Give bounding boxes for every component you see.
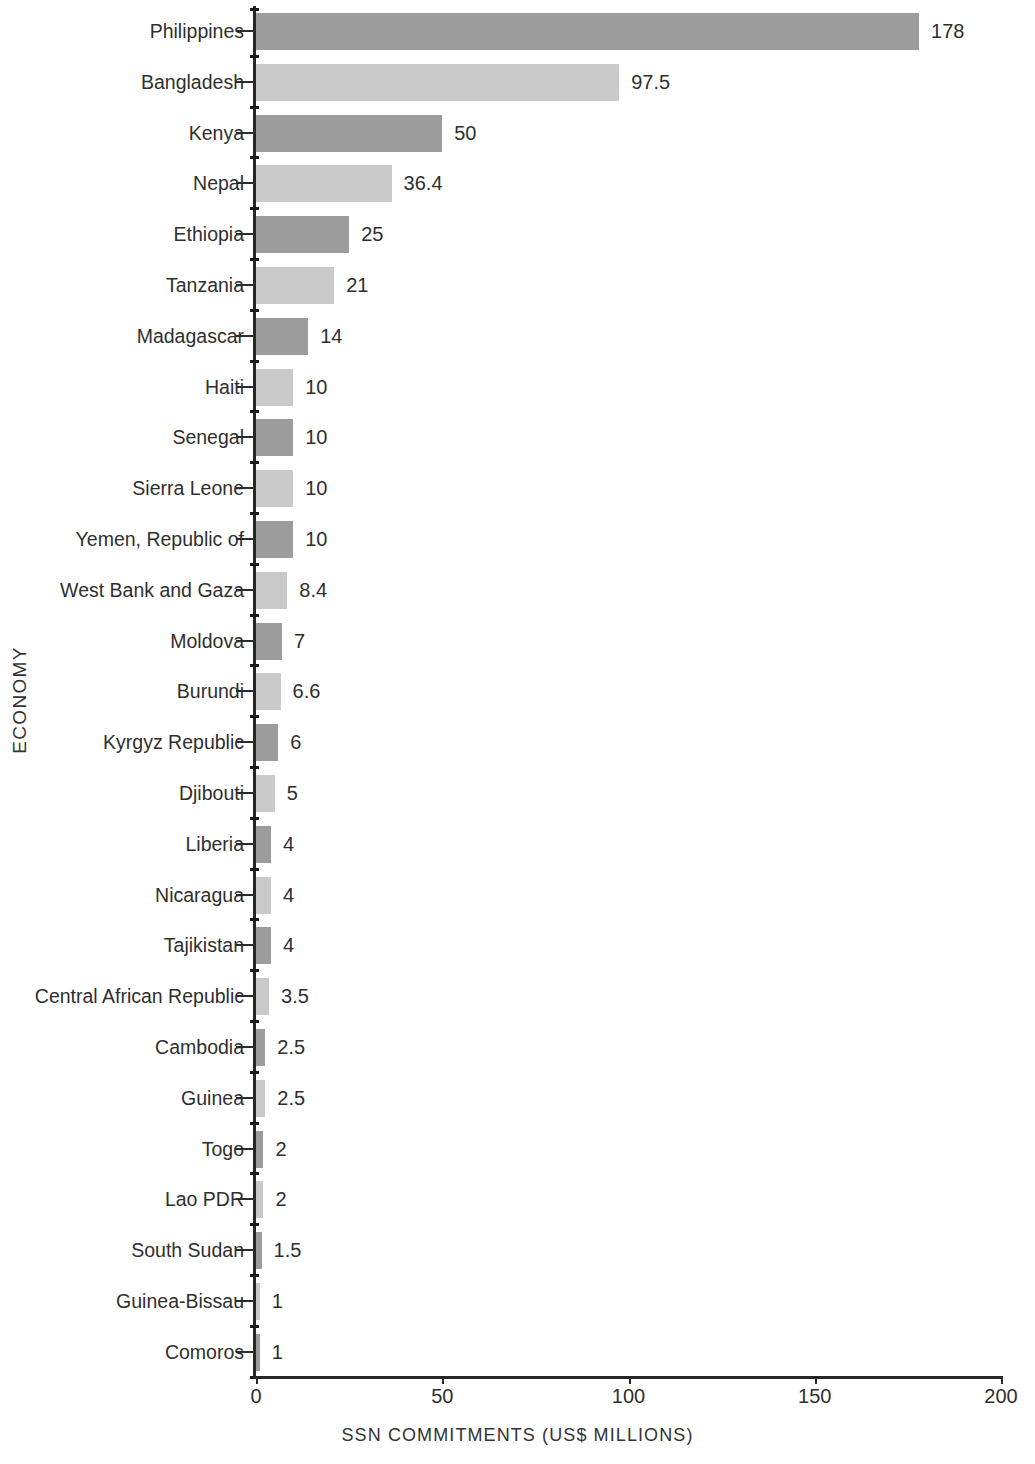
bar	[256, 369, 293, 406]
category-label: Bangladesh	[141, 57, 244, 108]
bar-row: Nepal36.4	[0, 158, 1035, 209]
y-axis-minor-tick	[250, 106, 259, 109]
y-axis-minor-tick	[250, 1020, 259, 1023]
category-tick-dash	[236, 487, 256, 489]
bar-row: Madagascar14	[0, 311, 1035, 362]
bar-row: Burundi6.6	[0, 666, 1035, 717]
y-axis-minor-tick	[250, 207, 259, 210]
bar-row: South Sudan1.5	[0, 1225, 1035, 1276]
bar-row: Djibouti5	[0, 768, 1035, 819]
y-axis-minor-tick	[250, 664, 259, 667]
bar-row: Guinea2.5	[0, 1073, 1035, 1124]
bar-row: Moldova7	[0, 616, 1035, 667]
x-axis-title: SSN COMMITMENTS (US$ MILLIONS)	[0, 1425, 1035, 1446]
category-tick-dash	[236, 386, 256, 388]
category-label: Comoros	[165, 1327, 244, 1378]
y-axis-minor-tick	[250, 8, 259, 11]
y-axis-minor-tick	[250, 766, 259, 769]
bar-row: Tanzania21	[0, 260, 1035, 311]
bar-value-label: 10	[305, 514, 327, 565]
bar-value-label: 14	[320, 311, 342, 362]
bar	[256, 1181, 263, 1218]
bar-row: Comoros1	[0, 1327, 1035, 1378]
category-tick-dash	[236, 792, 256, 794]
bar	[256, 623, 282, 660]
category-label: Madagascar	[137, 311, 244, 362]
bar-value-label: 5	[287, 768, 298, 819]
bar	[256, 165, 392, 202]
category-label: Guinea-Bissau	[116, 1276, 244, 1327]
y-axis-minor-tick	[250, 512, 259, 515]
y-axis-minor-tick	[250, 868, 259, 871]
category-label: West Bank and Gaza	[60, 565, 244, 616]
category-label: Guinea	[181, 1073, 244, 1124]
bar-value-label: 6	[290, 717, 301, 768]
category-label: Philippines	[150, 6, 244, 57]
bar-value-label: 36.4	[404, 158, 443, 209]
category-tick-dash	[236, 1097, 256, 1099]
bar-value-label: 2.5	[277, 1022, 305, 1073]
y-axis-minor-tick	[250, 1223, 259, 1226]
bar-row: Kyrgyz Republic6	[0, 717, 1035, 768]
bar-value-label: 10	[305, 463, 327, 514]
bar-value-label: 1.5	[274, 1225, 302, 1276]
bar-row: Yemen, Republic of10	[0, 514, 1035, 565]
y-axis-minor-tick	[250, 258, 259, 261]
x-axis-line	[253, 1376, 1001, 1379]
category-tick-dash	[236, 1351, 256, 1353]
x-axis-tick	[815, 1376, 817, 1384]
x-axis-tick-label: 200	[961, 1385, 1035, 1408]
bar-value-label: 25	[361, 209, 383, 260]
bar-value-label: 4	[283, 870, 294, 921]
x-axis-tick	[256, 1376, 258, 1384]
bar-value-label: 97.5	[631, 57, 670, 108]
y-axis-minor-tick	[250, 817, 259, 820]
category-tick-dash	[236, 1046, 256, 1048]
bar-value-label: 4	[283, 819, 294, 870]
category-label: Burundi	[177, 666, 244, 717]
category-tick-dash	[236, 233, 256, 235]
y-axis-minor-tick	[250, 715, 259, 718]
y-axis-minor-tick	[250, 563, 259, 566]
bar-row: Philippines178	[0, 6, 1035, 57]
bar-value-label: 10	[305, 412, 327, 463]
bar-value-label: 4	[283, 920, 294, 971]
bar-row: Senegal10	[0, 412, 1035, 463]
category-tick-dash	[236, 1148, 256, 1150]
y-axis-minor-tick	[250, 1274, 259, 1277]
bar	[256, 826, 271, 863]
bar-value-label: 178	[931, 6, 964, 57]
y-axis-minor-tick	[250, 360, 259, 363]
bar-value-label: 2	[275, 1124, 286, 1175]
y-axis-minor-tick	[250, 1122, 259, 1125]
bar	[256, 673, 281, 710]
bar-row: Sierra Leone10	[0, 463, 1035, 514]
y-axis-minor-tick	[250, 55, 259, 58]
bar	[256, 1334, 260, 1371]
category-tick-dash	[236, 741, 256, 743]
bar	[256, 64, 619, 101]
bar	[256, 1080, 265, 1117]
category-label: Central African Republic	[35, 971, 244, 1022]
category-tick-dash	[236, 1198, 256, 1200]
bar	[256, 877, 271, 914]
bar	[256, 470, 293, 507]
category-label: Cambodia	[155, 1022, 244, 1073]
category-tick-dash	[236, 995, 256, 997]
x-axis-tick	[442, 1376, 444, 1384]
bar-value-label: 50	[454, 108, 476, 159]
y-axis-minor-tick	[250, 1172, 259, 1175]
y-axis-minor-tick	[250, 461, 259, 464]
category-label: Senegal	[172, 412, 244, 463]
bar-value-label: 21	[346, 260, 368, 311]
category-tick-dash	[236, 640, 256, 642]
bar-value-label: 8.4	[299, 565, 327, 616]
bar-value-label: 1	[272, 1276, 283, 1327]
category-label: Moldova	[170, 616, 244, 667]
bar-row: Liberia4	[0, 819, 1035, 870]
bar	[256, 978, 269, 1015]
category-tick-dash	[236, 436, 256, 438]
category-tick-dash	[236, 132, 256, 134]
bar-value-label: 7	[294, 616, 305, 667]
x-axis-tick-label: 100	[589, 1385, 669, 1408]
